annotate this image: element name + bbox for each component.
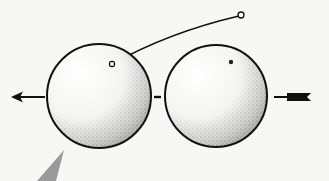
diagram-canvas xyxy=(0,0,329,181)
left-sphere-marker xyxy=(109,61,114,66)
gray-pointer xyxy=(37,150,64,181)
right-sphere-dot xyxy=(229,60,233,64)
left-sphere xyxy=(47,44,151,148)
right-arrow-tail xyxy=(274,93,311,101)
left-arrow xyxy=(11,92,45,103)
right-sphere xyxy=(165,45,267,147)
lead-line-end-circle xyxy=(238,12,244,18)
